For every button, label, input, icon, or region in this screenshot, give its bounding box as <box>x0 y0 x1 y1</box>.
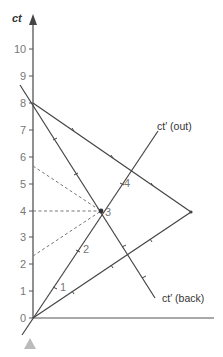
tick-label-1: 1 <box>20 285 26 297</box>
turnaround-event-dot <box>99 209 104 214</box>
tick-label-5: 5 <box>20 178 26 190</box>
ct-prime-out-label: ct′ (out) <box>157 120 192 132</box>
triangle-up-icon <box>24 338 36 349</box>
axis-title: ct <box>12 12 23 24</box>
tick-label-9: 9 <box>20 70 26 82</box>
event-label-2: 2 <box>83 243 89 255</box>
axis-arrow-icon <box>29 14 37 25</box>
event-label-1: 1 <box>60 281 66 293</box>
ct-prime-out-line <box>22 131 158 335</box>
tick-label-6: 6 <box>20 151 26 163</box>
tick-label-4: 4 <box>20 205 26 217</box>
tick-label-0: 0 <box>20 312 26 324</box>
tick-label-2: 2 <box>20 258 26 270</box>
event-label-4: 4 <box>124 177 130 189</box>
spacetime-diagram: ct 0 1 2 3 4 5 6 7 8 9 10 ct′ (out) ct′ … <box>0 0 223 357</box>
tick-label-8: 8 <box>20 97 26 109</box>
event-label-3: 3 <box>105 206 111 218</box>
simultaneity-lines <box>33 166 101 256</box>
ct-prime-back-label: ct′ (back) <box>162 292 204 304</box>
tick-label-7: 7 <box>20 124 26 136</box>
ct-prime-back-line <box>20 85 155 298</box>
vertex-dot <box>189 210 192 213</box>
tick-label-10: 10 <box>14 43 26 55</box>
tick-label-3: 3 <box>20 231 26 243</box>
